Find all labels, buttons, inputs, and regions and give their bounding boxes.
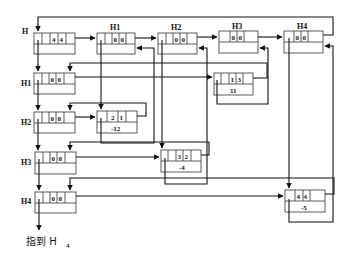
field-value: 11 (230, 87, 237, 95)
field: 0 (239, 34, 243, 42)
field: 0 (121, 36, 125, 44)
column-head-h4: H4 0 0 (284, 22, 323, 53)
label-col-h1: H1 (110, 23, 120, 32)
column-head-h1: H1 0 0 (97, 23, 135, 54)
element-node-3-2: 3 2 -4 (161, 150, 201, 172)
field: 0 (296, 34, 300, 42)
field-row: 4 (297, 193, 301, 201)
label-row-h1: H1 (21, 79, 31, 88)
field-row: 1 (231, 76, 235, 84)
row-head-h1: H1 0 0 (21, 73, 75, 94)
element-node-2-1: 2 1 -12 (97, 111, 137, 133)
caption-text: 指到 H (26, 235, 57, 247)
column-head-h3: H3 0 0 (219, 22, 258, 53)
caption: 指到 H 4 (26, 235, 70, 249)
field: 0 (182, 36, 186, 44)
row-head-h4: H4 0 0 (21, 192, 76, 213)
field-col: 3 (238, 76, 242, 84)
head-node-h: H 4 4 (22, 27, 75, 54)
element-node-4-4: 4 4 -5 (285, 190, 325, 212)
label-col-h3: H3 (232, 22, 242, 31)
field-rows: 4 (52, 36, 56, 44)
row-head-h3: H3 0 0 (21, 152, 76, 174)
column-head-h2: H2 0 0 (158, 23, 197, 54)
field: 0 (52, 195, 56, 203)
field: 0 (51, 115, 55, 123)
field-value: -12 (111, 125, 121, 133)
field: 0 (59, 195, 63, 203)
field-value: -5 (301, 204, 307, 212)
field-col: 1 (120, 114, 124, 122)
field-value: -4 (179, 164, 185, 172)
orthogonal-list-diagram: H 4 4 H1 0 0 H2 0 0 H3 (0, 0, 358, 253)
field-col: 4 (304, 193, 308, 201)
label-col-h4: H4 (297, 22, 307, 31)
field-col: 2 (185, 153, 189, 161)
label-row-h4: H4 (21, 197, 31, 206)
caption-subscript: 4 (66, 242, 70, 249)
label-row-h3: H3 (21, 158, 31, 167)
field: 0 (175, 36, 179, 44)
element-node-1-3: 1 3 11 (214, 73, 253, 95)
field: 0 (58, 115, 62, 123)
field: 0 (58, 76, 62, 84)
field: 0 (303, 34, 307, 42)
row-head-h2: H2 0 0 (21, 112, 75, 133)
label-h: H (22, 27, 29, 36)
field-row: 2 (111, 114, 115, 122)
field: 0 (114, 36, 118, 44)
field: 0 (59, 155, 63, 163)
field-row: 3 (178, 153, 182, 161)
field: 0 (51, 76, 55, 84)
label-row-h2: H2 (21, 118, 31, 127)
field-cols: 4 (60, 36, 64, 44)
label-col-h2: H2 (171, 23, 181, 32)
field: 0 (232, 34, 236, 42)
field: 0 (52, 155, 56, 163)
